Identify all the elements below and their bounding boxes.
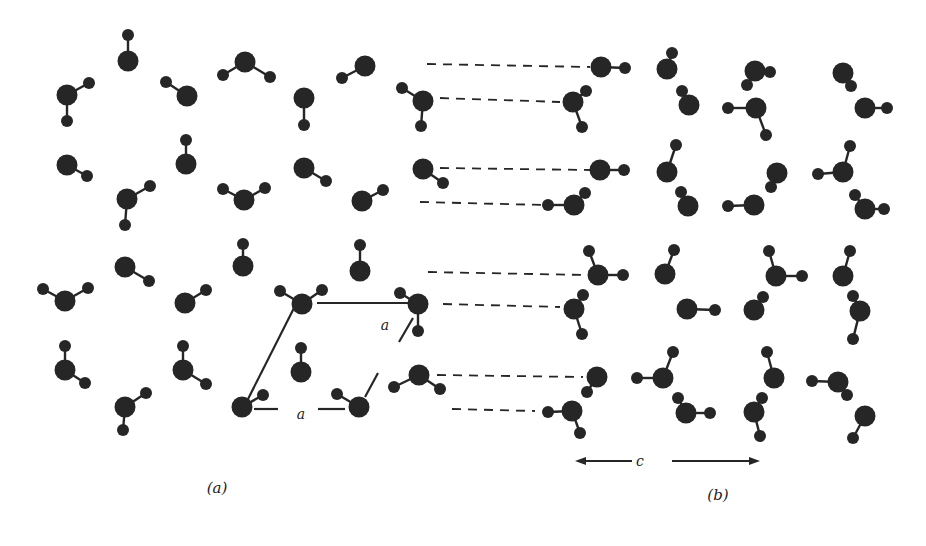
dashed-line	[443, 304, 560, 307]
water-molecule	[331, 388, 370, 418]
water-molecule	[591, 57, 632, 78]
hydrogen-atom	[160, 76, 172, 88]
hydrogen-atom	[415, 120, 427, 132]
water-molecule	[115, 387, 153, 436]
oxygen-atom	[855, 98, 876, 119]
water-molecule	[291, 342, 312, 383]
hydrogen-atom	[177, 340, 189, 352]
water-molecule	[394, 287, 429, 337]
water-molecule	[37, 282, 94, 312]
oxygen-atom	[233, 256, 254, 277]
oxygen-atom	[746, 98, 767, 119]
oxygen-atom	[587, 367, 608, 388]
hydrogen-atom	[336, 72, 348, 84]
oxygen-atom	[55, 360, 76, 381]
hydrogen-atom	[666, 47, 678, 59]
c-axis-label: c	[634, 453, 646, 469]
c-axis-arrows	[575, 457, 760, 465]
oxygen-atom	[588, 265, 609, 286]
water-molecule	[744, 291, 770, 321]
hydrogen-atom	[722, 200, 734, 212]
oxygen-atom	[833, 266, 854, 287]
oxygen-atom	[855, 199, 876, 220]
water-molecule	[388, 365, 446, 396]
water-molecule	[217, 182, 271, 211]
water-molecule	[57, 77, 96, 127]
hydrogen-atom	[394, 287, 406, 299]
water-molecule	[583, 245, 629, 286]
hydrogen-atom	[320, 175, 332, 187]
hydrogen-atom	[264, 71, 276, 83]
dashed-line	[428, 272, 585, 275]
oxygen-atom	[563, 92, 584, 113]
oxygen-atom	[232, 397, 253, 418]
hydrogen-atom	[59, 340, 71, 352]
oxygen-atom	[175, 293, 196, 314]
hydrogen-atom	[676, 85, 688, 97]
oxygen-atom	[177, 86, 198, 107]
water-molecule	[352, 184, 390, 212]
hydrogen-atom	[259, 182, 271, 194]
water-molecule	[722, 98, 772, 142]
oxygen-atom	[349, 397, 370, 418]
oxygen-atom	[653, 368, 674, 389]
hydrogen-atom	[576, 328, 588, 340]
water-molecule	[761, 346, 785, 389]
water-molecule	[542, 187, 591, 216]
hydrogen-atom	[796, 270, 808, 282]
oxygen-atom	[676, 403, 697, 424]
oxygen-atom	[117, 189, 138, 210]
hydrogen-atom	[81, 170, 93, 182]
water-molecule	[160, 76, 198, 107]
water-molecule	[722, 195, 765, 216]
hydrogen-atom	[847, 290, 859, 302]
ice-crystal-structure-diagram	[0, 0, 926, 546]
hydrogen-atom	[812, 168, 824, 180]
oxygen-atom	[57, 85, 78, 106]
hydrogen-atom	[576, 121, 588, 133]
water-molecule	[175, 284, 213, 314]
water-molecules	[37, 29, 893, 444]
unit-cell-edge	[365, 373, 378, 397]
oxygen-atom	[291, 362, 312, 383]
panel-caption-b: (b)	[707, 486, 728, 504]
dashed-correspondence-lines	[420, 64, 590, 411]
hydrogen-atom	[675, 186, 687, 198]
dashed-line	[440, 168, 590, 170]
water-molecule	[849, 189, 890, 220]
hydrogen-atom	[237, 238, 249, 250]
water-molecule	[233, 238, 254, 277]
oxygen-atom	[57, 155, 78, 176]
hydrogen-atom	[377, 184, 389, 196]
panel-caption-a: (a)	[207, 479, 228, 497]
dashed-line	[452, 409, 535, 411]
hydrogen-atom	[180, 134, 192, 146]
oxygen-atom	[350, 261, 371, 282]
water-molecule	[672, 392, 716, 424]
water-molecule	[655, 244, 681, 285]
oxygen-atom	[655, 264, 676, 285]
water-molecule	[631, 346, 679, 389]
hydrogen-atom	[765, 181, 777, 193]
hydrogen-atom	[619, 62, 631, 74]
water-molecule	[657, 47, 679, 80]
water-molecule	[274, 284, 328, 315]
hydrogen-atom	[274, 285, 286, 297]
hydrogen-atom	[847, 333, 859, 345]
oxygen-atom	[118, 51, 139, 72]
unit-cell-label-a-bottom: a	[295, 406, 307, 422]
dashed-line	[420, 202, 545, 205]
water-molecule	[657, 139, 683, 183]
hydrogen-atom	[295, 342, 307, 354]
oxygen-atom	[562, 401, 583, 422]
oxygen-atom	[235, 52, 256, 73]
oxygen-atom	[591, 57, 612, 78]
oxygen-atom	[744, 195, 765, 216]
hydrogen-atom	[579, 187, 591, 199]
oxygen-atom	[677, 299, 698, 320]
hydrogen-atom	[844, 245, 856, 257]
hydrogen-atom	[761, 346, 773, 358]
hydrogen-atom	[200, 378, 212, 390]
hydrogen-atom	[709, 304, 721, 316]
water-molecule	[542, 401, 586, 440]
